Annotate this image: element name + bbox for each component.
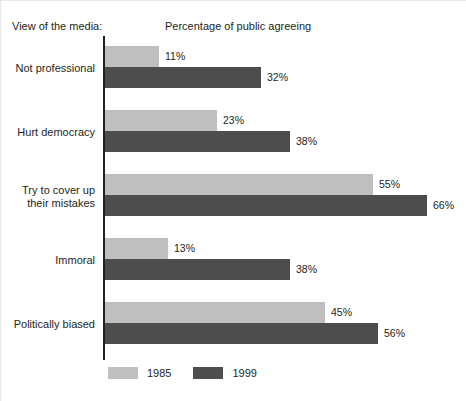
- frame-top-edge: [0, 0, 466, 1]
- legend-item-1985: 1985: [108, 367, 171, 379]
- bar-value-label: 45%: [331, 302, 352, 323]
- bar-value-label: 38%: [296, 131, 317, 152]
- category-label-1: Not professional: [16, 62, 96, 75]
- legend: 19851999: [108, 367, 279, 379]
- bar-1999-3: [105, 195, 427, 216]
- bar-group: 55%66%: [105, 174, 459, 216]
- bar-1985-1: [105, 46, 159, 67]
- bar-1999-2: [105, 131, 290, 152]
- bar-value-label: 56%: [384, 323, 405, 344]
- category-labels: Not professionalHurt democracyTry to cov…: [0, 36, 103, 360]
- bar-group: 11%32%: [105, 46, 459, 88]
- bar-1999-4: [105, 259, 290, 280]
- category-label-5: Politically biased: [14, 318, 95, 331]
- bar-group: 13%38%: [105, 238, 459, 280]
- chart-title: Percentage of public agreeing: [165, 20, 311, 32]
- legend-swatch-1999: [193, 367, 223, 379]
- bar-1985-4: [105, 238, 168, 259]
- bar-1985-2: [105, 110, 217, 131]
- bar-chart: View of the media: Percentage of public …: [0, 0, 466, 401]
- legend-swatch-1985: [108, 367, 138, 379]
- bar-value-label: 55%: [379, 174, 400, 195]
- legend-label-1985: 1985: [147, 367, 171, 379]
- bar-1985-3: [105, 174, 373, 195]
- category-label-2: Hurt democracy: [17, 126, 95, 139]
- legend-label-1999: 1999: [232, 367, 256, 379]
- bar-value-label: 32%: [267, 67, 288, 88]
- bar-value-label: 66%: [433, 195, 454, 216]
- bar-1999-5: [105, 323, 378, 344]
- bar-value-label: 13%: [174, 238, 195, 259]
- legend-item-1999: 1999: [193, 367, 256, 379]
- bar-1985-5: [105, 302, 325, 323]
- category-label-3: Try to cover up their mistakes: [22, 184, 95, 210]
- category-label-4: Immoral: [55, 254, 95, 267]
- bar-group: 45%56%: [105, 302, 459, 344]
- y-axis-title: View of the media:: [12, 20, 102, 32]
- bar-value-label: 11%: [165, 46, 185, 67]
- plot-area: 11%32%23%38%55%66%13%38%45%56%: [103, 36, 459, 360]
- bar-value-label: 23%: [223, 110, 244, 131]
- bar-1999-1: [105, 67, 261, 88]
- bar-group: 23%38%: [105, 110, 459, 152]
- bar-value-label: 38%: [296, 259, 317, 280]
